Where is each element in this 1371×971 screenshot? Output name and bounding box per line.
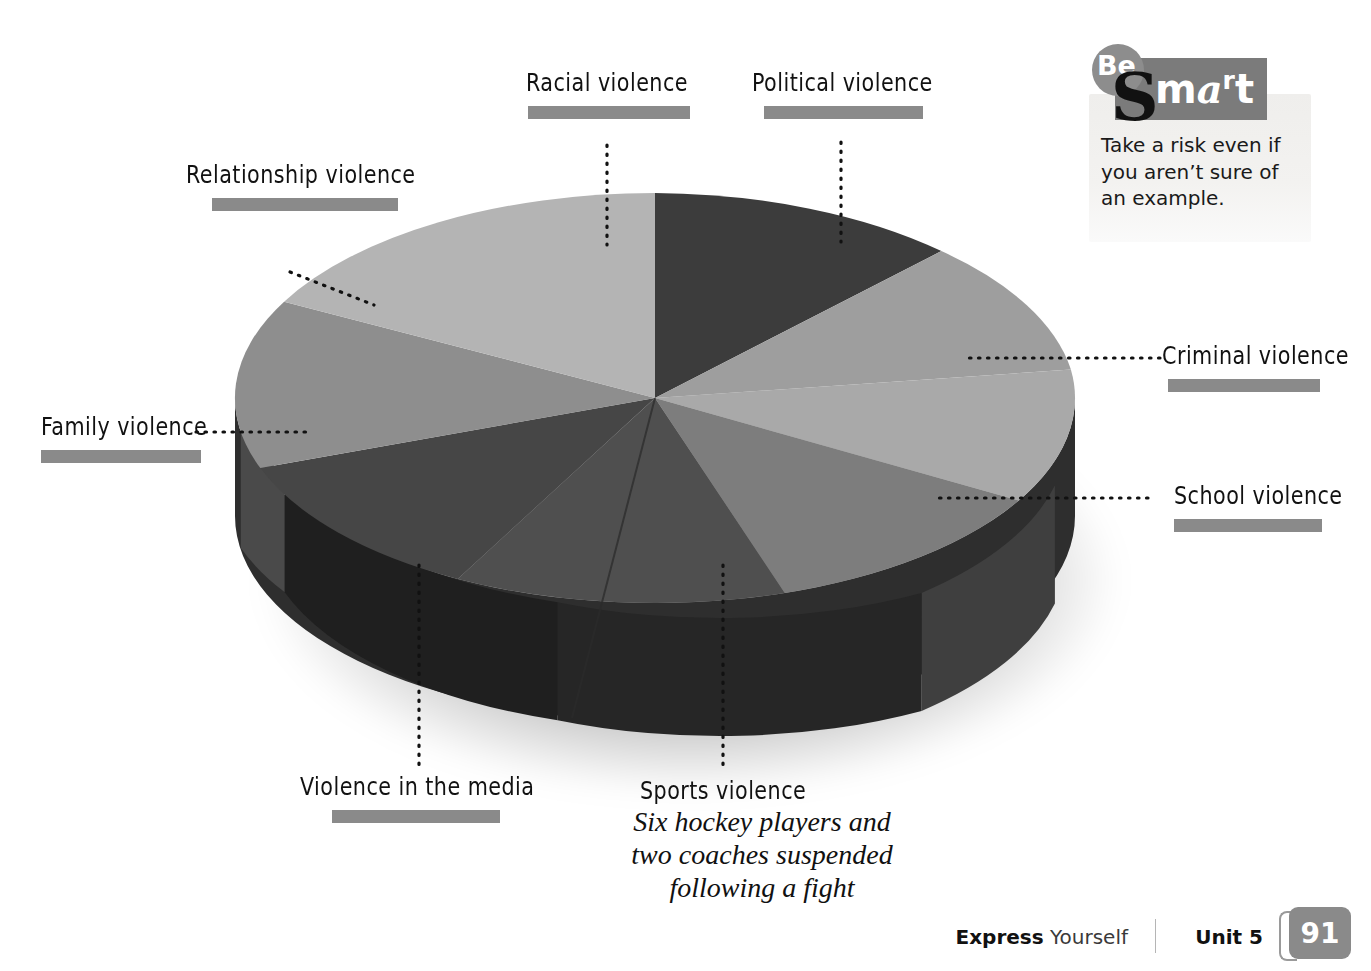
page-canvas: Relationship violence Racial violence Po…	[0, 0, 1371, 971]
callout-bar-school-violence	[1174, 519, 1322, 532]
callout-violence-in-the-media[interactable]: Violence in the media	[300, 772, 555, 823]
callout-bar-relationship-violence	[212, 198, 398, 211]
callout-criminal-violence[interactable]: Criminal violence	[1162, 341, 1365, 392]
callout-political-violence[interactable]: Political violence	[752, 68, 948, 119]
footer-series-rest: Yourself	[1044, 925, 1128, 949]
callout-sports-violence[interactable]: Sports violence	[640, 776, 821, 805]
callout-family-violence[interactable]: Family violence	[41, 412, 222, 463]
callout-label-political-violence: Political violence	[752, 68, 933, 97]
footer-page-number: 91	[1289, 907, 1351, 959]
callout-bar-racial-violence	[528, 106, 690, 119]
sports-caption-line-2: two coaches suspended	[592, 838, 932, 871]
callout-label-criminal-violence: Criminal violence	[1162, 341, 1349, 370]
sports-caption-line-1: Six hockey players and	[592, 805, 932, 838]
footer-series-bold: Express	[956, 925, 1044, 949]
sports-caption-line-3: following a fight	[592, 871, 932, 904]
callout-relationship-violence[interactable]: Relationship violence	[186, 160, 435, 211]
callout-bar-political-violence	[764, 106, 923, 119]
be-smart-tip-text: Take a risk even if you aren’t sure of a…	[1101, 132, 1301, 212]
footer-page-badge: 91	[1277, 907, 1355, 963]
footer-divider	[1155, 919, 1156, 953]
footer-series-title: Express Yourself	[956, 925, 1129, 949]
callout-label-sports-violence: Sports violence	[640, 776, 806, 805]
callout-racial-violence[interactable]: Racial violence	[526, 68, 702, 119]
callout-label-violence-in-the-media: Violence in the media	[300, 772, 534, 801]
be-smart-logo-s-text: S	[1111, 64, 1159, 130]
page-footer: Express Yourself Unit 5 91	[0, 915, 1371, 971]
callout-label-racial-violence: Racial violence	[526, 68, 688, 97]
callout-label-school-violence: School violence	[1174, 481, 1343, 510]
sports-violence-caption: Six hockey players and two coaches suspe…	[592, 805, 932, 904]
callout-bar-criminal-violence	[1168, 379, 1320, 392]
be-smart-logo-mart-text: mart	[1155, 68, 1254, 109]
callout-bar-family-violence	[41, 450, 201, 463]
callout-label-family-violence: Family violence	[41, 412, 207, 441]
callout-bar-violence-in-the-media	[332, 810, 500, 823]
be-smart-tip-box: Be mart S Take a risk even if you aren’t…	[1089, 48, 1329, 248]
callout-label-relationship-violence: Relationship violence	[186, 160, 416, 189]
callout-school-violence[interactable]: School violence	[1174, 481, 1357, 532]
footer-unit-label: Unit 5	[1195, 925, 1263, 949]
